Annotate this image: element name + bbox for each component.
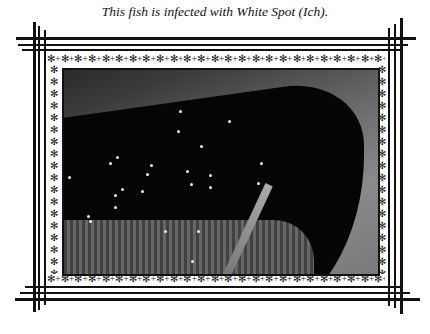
white-spot: [177, 130, 180, 133]
white-spot: [191, 260, 194, 263]
frame-line: [394, 24, 396, 308]
ornament-band-top: ✻+✻+✻+✻+✻+✻+✻+✻+✻+✻+✻+✻+✻+✻+✻+✻+✻+✻+✻+✻+…: [47, 53, 385, 65]
figure-caption: This fish is infected with White Spot (I…: [0, 4, 430, 20]
white-spot: [164, 230, 167, 233]
white-spot: [116, 156, 119, 159]
white-spot: [209, 186, 212, 189]
frame-line: [16, 37, 416, 40]
white-spot: [146, 173, 149, 176]
ornament-band-left: ✻✻✻✻✻✻✻✻✻✻✻✻✻✻✻✻✻✻: [48, 64, 60, 274]
white-spot: [190, 183, 193, 186]
white-spot: [68, 176, 71, 179]
frame-line: [33, 22, 36, 312]
frame-line: [18, 44, 408, 46]
white-spot: [257, 182, 260, 185]
frame-line: [22, 49, 402, 51]
white-spot: [228, 120, 231, 123]
white-spot: [114, 194, 117, 197]
white-spot: [141, 190, 144, 193]
white-spot: [89, 220, 92, 223]
frame-line: [20, 292, 410, 294]
white-spot: [121, 188, 124, 191]
white-spot: [87, 215, 90, 218]
frame-line: [388, 28, 390, 306]
frame-line: [25, 286, 400, 288]
white-spot: [114, 206, 117, 209]
white-spot: [150, 164, 153, 167]
white-spot: [109, 162, 112, 165]
frame-line: [38, 26, 40, 310]
fish-belly: [64, 220, 314, 276]
frame-line: [400, 18, 403, 314]
frame-line: [15, 298, 420, 301]
white-spot: [197, 230, 200, 233]
frame-line: [44, 30, 46, 305]
white-spot: [186, 170, 189, 173]
white-spot: [209, 174, 212, 177]
fish-photo: [62, 68, 380, 276]
white-spot: [260, 162, 263, 165]
white-spot: [200, 145, 203, 148]
white-spot: [179, 110, 182, 113]
